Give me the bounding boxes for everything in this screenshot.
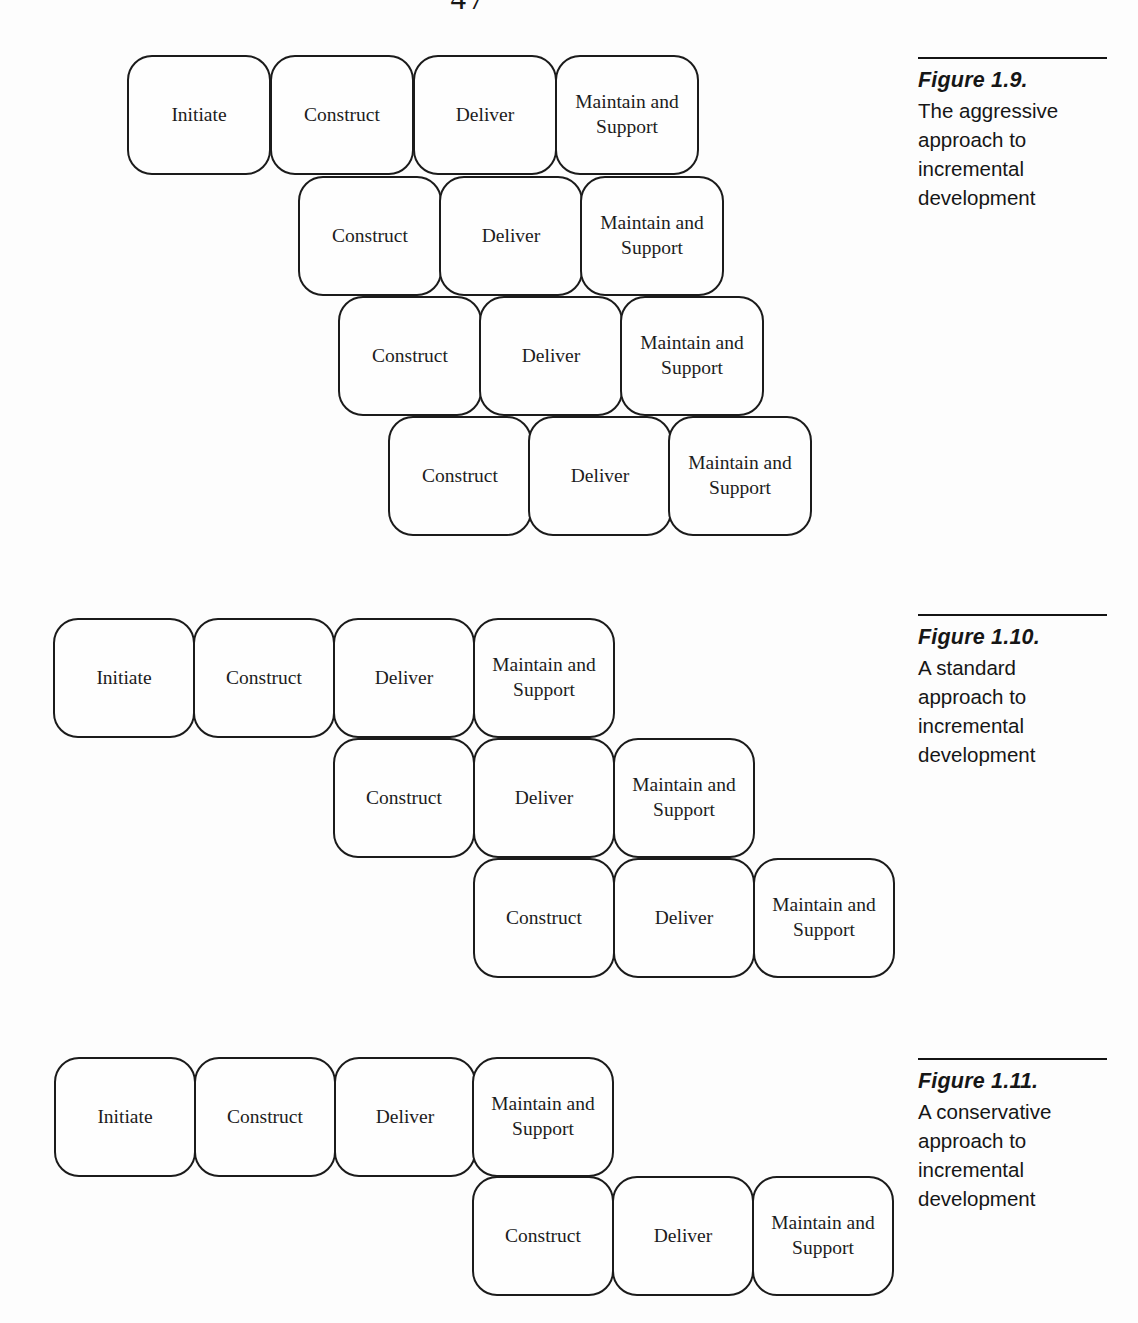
phase-box-maintain-and-support: Maintain and Support — [613, 738, 755, 858]
phase-box-deliver: Deliver — [333, 618, 475, 738]
phase-box-label: Construct — [304, 103, 380, 128]
phase-box-deliver: Deliver — [612, 1176, 754, 1296]
phase-box-label: Deliver — [515, 786, 573, 811]
phase-box-construct: Construct — [333, 738, 475, 858]
phase-box-construct: Construct — [270, 55, 414, 175]
caption-title: Figure 1.11. — [918, 1067, 1114, 1095]
phase-box-label: Maintain and Support — [634, 331, 750, 381]
phase-box-label: Initiate — [97, 1105, 152, 1130]
caption-title: Figure 1.9. — [918, 66, 1114, 94]
caption-text-line: incremental — [918, 154, 1114, 183]
phase-box-construct: Construct — [193, 618, 335, 738]
caption-text-line: A standard — [918, 653, 1114, 682]
caption-text-line: A conservative — [918, 1097, 1114, 1126]
phase-box-deliver: Deliver — [439, 176, 583, 296]
phase-box-label: Maintain and Support — [682, 451, 798, 501]
page-number: 47 — [445, 0, 493, 17]
caption-text-line: approach to — [918, 1126, 1114, 1155]
phase-box-label: Initiate — [171, 103, 226, 128]
phase-box-label: Deliver — [482, 224, 540, 249]
phase-box-label: Maintain and Support — [766, 1211, 880, 1261]
phase-box-label: Construct — [227, 1105, 303, 1130]
caption-text-line: approach to — [918, 682, 1114, 711]
phase-box-label: Maintain and Support — [487, 653, 601, 703]
phase-box-label: Deliver — [655, 906, 713, 931]
figure-1-11-caption: Figure 1.11.A conservativeapproach toinc… — [918, 1058, 1114, 1213]
figure-1-10-caption: Figure 1.10.A standardapproach toincreme… — [918, 614, 1114, 769]
caption-text-line: incremental — [918, 711, 1114, 740]
phase-box-label: Construct — [366, 786, 442, 811]
book-page: 47 InitiateConstructDeliverMaintain and … — [0, 0, 1138, 1323]
phase-box-label: Maintain and Support — [767, 893, 881, 943]
phase-box-construct: Construct — [473, 858, 615, 978]
phase-box-maintain-and-support: Maintain and Support — [752, 1176, 894, 1296]
caption-text-line: approach to — [918, 125, 1114, 154]
phase-box-label: Maintain and Support — [594, 211, 710, 261]
phase-box-initiate: Initiate — [127, 55, 271, 175]
phase-box-label: Maintain and Support — [486, 1092, 600, 1142]
phase-box-maintain-and-support: Maintain and Support — [473, 618, 615, 738]
phase-box-label: Deliver — [375, 666, 433, 691]
phase-box-label: Construct — [422, 464, 498, 489]
phase-box-label: Construct — [505, 1224, 581, 1249]
phase-box-initiate: Initiate — [54, 1057, 196, 1177]
caption-text-line: development — [918, 740, 1114, 769]
phase-box-label: Maintain and Support — [569, 90, 685, 140]
caption-text-line: incremental — [918, 1155, 1114, 1184]
caption-title: Figure 1.10. — [918, 623, 1114, 651]
phase-box-deliver: Deliver — [528, 416, 672, 536]
phase-box-label: Initiate — [96, 666, 151, 691]
phase-box-maintain-and-support: Maintain and Support — [668, 416, 812, 536]
caption-rule — [918, 1058, 1107, 1060]
phase-box-label: Construct — [226, 666, 302, 691]
phase-box-maintain-and-support: Maintain and Support — [620, 296, 764, 416]
phase-box-construct: Construct — [298, 176, 442, 296]
phase-box-label: Deliver — [456, 103, 514, 128]
caption-text-line: The aggressive — [918, 96, 1114, 125]
phase-box-maintain-and-support: Maintain and Support — [472, 1057, 614, 1177]
phase-box-label: Construct — [372, 344, 448, 369]
phase-box-label: Maintain and Support — [627, 773, 741, 823]
phase-box-deliver: Deliver — [334, 1057, 476, 1177]
figure-1-9-caption: Figure 1.9.The aggressiveapproach toincr… — [918, 57, 1114, 212]
caption-rule — [918, 57, 1107, 59]
phase-box-label: Deliver — [376, 1105, 434, 1130]
phase-box-maintain-and-support: Maintain and Support — [580, 176, 724, 296]
phase-box-deliver: Deliver — [473, 738, 615, 858]
phase-box-construct: Construct — [194, 1057, 336, 1177]
phase-box-maintain-and-support: Maintain and Support — [753, 858, 895, 978]
caption-rule — [918, 614, 1107, 616]
phase-box-construct: Construct — [388, 416, 532, 536]
caption-text-line: development — [918, 183, 1114, 212]
phase-box-label: Construct — [332, 224, 408, 249]
phase-box-maintain-and-support: Maintain and Support — [555, 55, 699, 175]
phase-box-construct: Construct — [338, 296, 482, 416]
phase-box-deliver: Deliver — [413, 55, 557, 175]
phase-box-label: Deliver — [654, 1224, 712, 1249]
phase-box-initiate: Initiate — [53, 618, 195, 738]
phase-box-deliver: Deliver — [613, 858, 755, 978]
phase-box-construct: Construct — [472, 1176, 614, 1296]
phase-box-label: Deliver — [571, 464, 629, 489]
caption-text-line: development — [918, 1184, 1114, 1213]
phase-box-label: Construct — [506, 906, 582, 931]
phase-box-deliver: Deliver — [479, 296, 623, 416]
phase-box-label: Deliver — [522, 344, 580, 369]
